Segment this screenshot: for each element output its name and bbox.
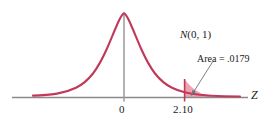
distribution-label-args: (0, 1) <box>187 28 211 40</box>
x-tick-label-210: 2.10 <box>173 104 193 115</box>
normal-distribution-figure: 0 2.10 Z N(0, 1) Area = .0179 <box>0 0 270 126</box>
z-axis-label: Z <box>251 89 258 101</box>
x-tick-label-0: 0 <box>119 104 125 115</box>
area-leader-line <box>192 62 213 95</box>
distribution-label: N(0, 1) <box>180 29 211 40</box>
area-annotation-label: Area = .0179 <box>197 54 250 64</box>
